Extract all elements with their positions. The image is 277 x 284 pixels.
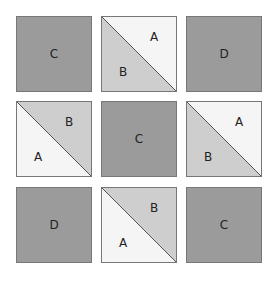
tile-label: D	[219, 48, 228, 60]
half-square-triangle-shape	[101, 187, 177, 263]
tile-r2c1-split: B A	[101, 187, 177, 263]
tile-r2c2-solid: C	[186, 187, 262, 263]
tile-label-lower: A	[34, 151, 42, 163]
tile-r0c0-solid: C	[16, 16, 92, 92]
quilt-block-grid: C A B D B A C	[16, 16, 263, 264]
tile-label-lower: A	[119, 237, 127, 249]
tile-label-upper: A	[235, 116, 243, 128]
half-square-triangle-shape	[101, 16, 177, 92]
tile-label-upper: A	[150, 31, 158, 43]
tile-r0c1-split: A B	[101, 16, 177, 92]
tile-label-upper: B	[150, 202, 158, 214]
tile-label-lower: B	[119, 66, 127, 78]
tile-label-lower: B	[204, 151, 212, 163]
tile-r1c1-solid: C	[101, 101, 177, 177]
tile-label: C	[50, 48, 58, 60]
tile-r1c0-split: B A	[16, 101, 92, 177]
tile-r0c2-solid: D	[186, 16, 262, 92]
tile-label: D	[49, 219, 58, 231]
tile-label: C	[135, 133, 143, 145]
tile-r2c0-solid: D	[16, 187, 92, 263]
tile-r1c2-split: A B	[186, 101, 262, 177]
half-square-triangle-shape	[186, 101, 262, 177]
half-square-triangle-shape	[16, 101, 92, 177]
tile-label: C	[220, 219, 228, 231]
tile-label-upper: B	[65, 116, 73, 128]
